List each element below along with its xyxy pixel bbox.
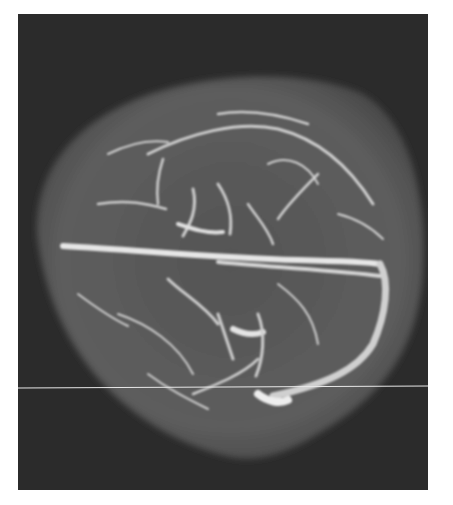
mr-venogram-image xyxy=(18,14,428,490)
head-silhouette xyxy=(37,77,424,459)
brain-vessel-illustration xyxy=(18,14,428,490)
